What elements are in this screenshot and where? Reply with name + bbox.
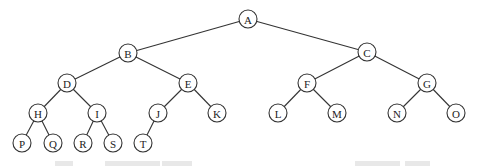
tree-node-n: N (388, 104, 406, 122)
tree-node-a: A (239, 10, 257, 28)
node-label: D (63, 78, 71, 90)
caption-fragment (162, 161, 192, 166)
node-label: L (275, 108, 282, 120)
node-label: A (244, 14, 252, 26)
node-label: E (185, 78, 192, 90)
node-label: O (452, 108, 460, 120)
tree-node-f: F (298, 74, 316, 92)
node-label: I (95, 108, 99, 120)
node-label: C (363, 47, 370, 59)
node-label: T (140, 138, 147, 150)
tree-node-t: T (134, 134, 152, 152)
node-label: S (110, 138, 116, 150)
caption-fragment (355, 161, 400, 166)
binary-tree-diagram: ABCDEFGHIJKLMNOPQRST (0, 0, 479, 166)
node-label: Q (49, 138, 57, 150)
edge-c-f (307, 52, 367, 83)
cropped-figure-caption (0, 158, 479, 166)
caption-fragment (405, 161, 430, 166)
tree-node-s: S (104, 134, 122, 152)
node-label: P (19, 138, 25, 150)
tree-node-h: H (29, 104, 47, 122)
node-label: M (332, 108, 342, 120)
node-label: N (393, 108, 401, 120)
tree-node-o: O (447, 104, 465, 122)
edge-a-b (128, 19, 248, 53)
tree-node-e: E (179, 74, 197, 92)
tree-node-g: G (418, 74, 436, 92)
node-label: G (423, 78, 431, 90)
tree-node-i: I (88, 104, 106, 122)
caption-fragment (55, 161, 73, 166)
tree-node-r: R (74, 134, 92, 152)
tree-node-q: Q (44, 134, 62, 152)
caption-fragment (105, 161, 160, 166)
tree-nodes: ABCDEFGHIJKLMNOPQRST (13, 10, 465, 152)
node-label: F (304, 78, 310, 90)
tree-node-j: J (149, 104, 167, 122)
tree-node-b: B (119, 44, 137, 62)
tree-node-c: C (358, 43, 376, 61)
edge-c-g (367, 52, 427, 83)
edge-b-e (128, 53, 188, 83)
node-label: H (34, 108, 42, 120)
edge-a-c (248, 19, 367, 52)
tree-node-m: M (328, 104, 346, 122)
node-label: R (79, 138, 87, 150)
node-label: J (156, 108, 161, 120)
tree-node-d: D (58, 74, 76, 92)
tree-node-p: P (13, 134, 31, 152)
tree-node-l: L (269, 104, 287, 122)
edge-b-d (67, 53, 128, 83)
node-label: B (124, 48, 131, 60)
tree-node-k: K (208, 104, 226, 122)
tree-edges (22, 19, 456, 143)
node-label: K (213, 108, 221, 120)
